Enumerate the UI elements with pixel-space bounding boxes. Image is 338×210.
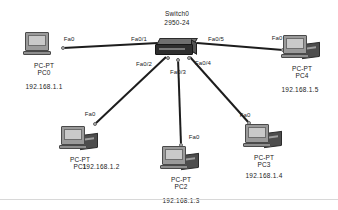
pc-icon xyxy=(283,35,321,63)
switch-port-nub-fa03 xyxy=(176,58,180,62)
pc-icon xyxy=(61,126,99,154)
pc-screen xyxy=(165,149,183,160)
pc3-ip-label: 192.168.1.4 xyxy=(245,172,282,180)
pc-monitor xyxy=(162,146,186,165)
pc-screen xyxy=(64,129,82,140)
port-label-fa0-2: Fa0/2 xyxy=(136,61,152,68)
link-pc0-switch[interactable] xyxy=(63,43,158,48)
pc3-name-label: PC3 xyxy=(258,161,271,169)
port-label-pc3-fa0: Fa0 xyxy=(240,112,251,119)
pc-base xyxy=(243,143,271,147)
canvas-bottom-border xyxy=(0,199,338,200)
link-pc1-switch[interactable] xyxy=(95,57,166,124)
pc0-ip-label: 192.168.1.1 xyxy=(25,83,62,91)
pc-monitor xyxy=(245,124,269,143)
pc-monitor xyxy=(283,35,307,54)
switch-body xyxy=(155,44,193,55)
port-label-fa0-5: Fa0/5 xyxy=(208,36,224,43)
port-label-fa0-4: Fa0/4 xyxy=(195,60,211,67)
port-label-fa0-1: Fa0/1 xyxy=(131,36,147,43)
pc-monitor xyxy=(25,32,49,51)
pc4-name-label: PC4 xyxy=(296,72,309,80)
pc-screen xyxy=(248,127,266,138)
pc-icon xyxy=(162,146,200,174)
switch-name-label: Switch0 xyxy=(165,10,189,18)
port-label-pc1-fa0: Fa0 xyxy=(85,111,96,118)
switch-model-label: 2950-24 xyxy=(164,19,189,27)
port-label-pc2-fa0: Fa0 xyxy=(189,134,200,141)
link-pc4-switch[interactable] xyxy=(197,43,283,50)
pc-screen xyxy=(286,38,304,49)
switch-icon xyxy=(155,38,199,57)
pc-screen xyxy=(28,35,46,46)
port-label-pc4-fa0: Fa0 xyxy=(272,35,283,42)
port-label-pc0-fa0: Fa0 xyxy=(64,36,75,43)
port-label-fa0-3: Fa0/3 xyxy=(170,69,186,76)
pc4-ip-label: 192.168.1.5 xyxy=(281,86,318,94)
network-topology-canvas: Switch0 2950-24 PC-PT PC0 192.168.1.1 PC… xyxy=(0,0,338,210)
pc-base xyxy=(160,165,188,169)
pc0-name-label: PC0 xyxy=(38,69,51,77)
pc-base xyxy=(23,51,51,55)
pc-icon xyxy=(25,32,63,60)
pc-base xyxy=(59,145,87,149)
pc-icon xyxy=(245,124,283,152)
pc-monitor xyxy=(61,126,85,145)
pc1-ip-label: 192.168.1.2 xyxy=(82,163,119,171)
pc-base xyxy=(281,54,309,58)
pc2-name-label: PC2 xyxy=(175,183,188,191)
